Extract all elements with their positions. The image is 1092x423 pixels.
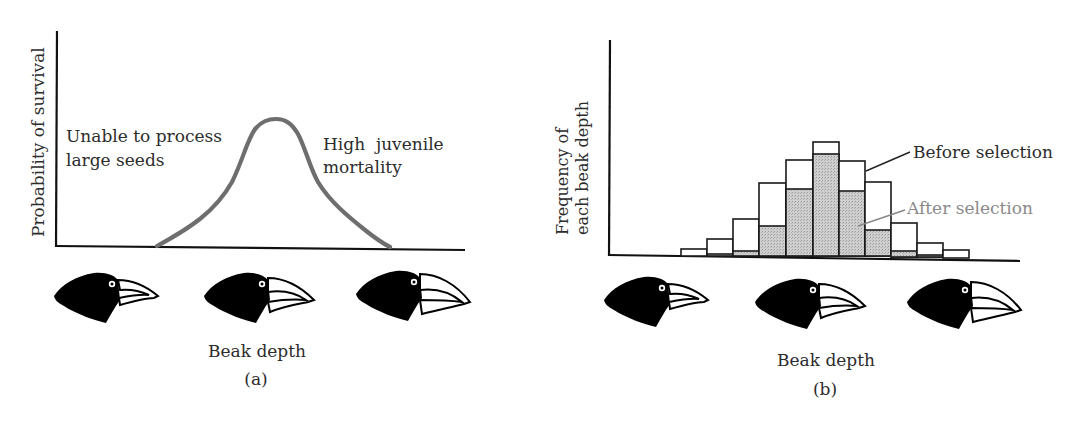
- figure-canvas: Probability of survival Unable to proces…: [0, 0, 1092, 423]
- finch-head-medium-beak-icon: [755, 279, 865, 329]
- bar-after: [759, 226, 786, 256]
- finch-head-large-beak-icon: [356, 271, 470, 321]
- legend-before-selection: Before selection: [913, 142, 1053, 162]
- note-unable-line1: Unable to process: [66, 126, 222, 146]
- note-mortality-line2: mortality: [323, 157, 402, 177]
- bar-after: [891, 251, 917, 257]
- y-axis-label-b-line2: each beak depth: [573, 101, 592, 235]
- y-axis-label-a: Probability of survival: [28, 47, 48, 237]
- y-axis-label-b-line1: Frequency of: [553, 127, 572, 235]
- y-axis: [56, 31, 57, 247]
- note-unable-line2: large seeds: [66, 150, 165, 170]
- finch-head-small-beak-icon: [604, 277, 708, 327]
- bar-after: [917, 255, 943, 257]
- finch-head-small-beak-icon: [54, 273, 158, 323]
- bar-after: [813, 154, 839, 256]
- caption-b: (b): [813, 379, 837, 399]
- x-axis-label-a: Beak depth: [208, 341, 306, 361]
- finch-head-large-beak-icon: [907, 279, 1021, 329]
- bar-before: [681, 249, 707, 256]
- panel-b: Frequency of each beak depth: [553, 40, 1053, 399]
- bar-after: [786, 189, 813, 256]
- before-callout-line: [866, 152, 910, 171]
- legend-after-selection: After selection: [906, 198, 1033, 218]
- note-mortality-line1: High juvenile: [323, 134, 444, 154]
- caption-a: (a): [244, 369, 267, 389]
- bar-before: [943, 250, 969, 258]
- bar-after: [707, 254, 733, 256]
- bar-after: [733, 251, 759, 256]
- finch-head-medium-beak-icon: [204, 273, 314, 323]
- bar-after: [865, 230, 891, 256]
- y-axis: [609, 40, 610, 256]
- panel-a: Probability of survival Unable to proces…: [28, 31, 470, 389]
- x-axis-label-b: Beak depth: [777, 350, 875, 370]
- x-axis: [55, 246, 465, 250]
- bar-after: [839, 191, 865, 256]
